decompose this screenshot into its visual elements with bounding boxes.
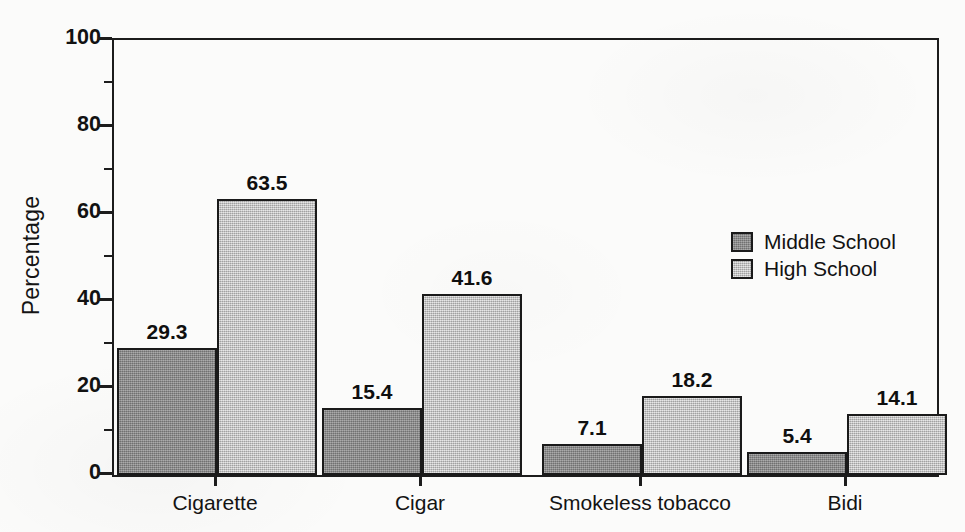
y-axis-tick-labels: 020406080100 <box>0 0 101 532</box>
y-axis-tick-label: 80 <box>49 114 101 136</box>
y-axis-major-tick <box>98 385 112 388</box>
bar-smokeless-tobacco-high-school <box>642 396 742 475</box>
bar-chart-figure: Percentage 020406080100 29.363.515.441.6… <box>0 0 965 532</box>
legend-item-middle-school: Middle School <box>731 228 896 255</box>
y-axis-minor-tick <box>104 429 112 432</box>
bar-value-label: 15.4 <box>352 381 393 402</box>
bar-smokeless-tobacco-middle-school <box>542 444 642 475</box>
y-axis-minor-tick <box>104 255 112 258</box>
bar-bidi-high-school <box>847 414 947 475</box>
dark-gray-swatch-icon <box>731 232 753 252</box>
bar-cigar-high-school <box>422 294 522 475</box>
y-axis-tick-label: 100 <box>49 27 101 49</box>
bar-value-label: 7.1 <box>577 417 606 438</box>
y-axis-tick-label: 60 <box>49 201 101 223</box>
legend-label-high-school: High School <box>764 258 877 279</box>
y-axis-tick-label: 20 <box>49 375 101 397</box>
y-axis-minor-tick <box>104 81 112 84</box>
x-axis-category-label: Bidi <box>827 492 862 514</box>
bar-value-label: 14.1 <box>877 387 918 408</box>
light-gray-swatch-icon <box>731 259 753 279</box>
bar-value-label: 41.6 <box>452 267 493 288</box>
y-axis-major-tick <box>98 124 112 127</box>
legend-item-high-school: High School <box>731 255 896 282</box>
bar-value-label: 5.4 <box>782 425 811 446</box>
y-axis-major-tick <box>98 298 112 301</box>
bar-value-label: 18.2 <box>672 369 713 390</box>
y-axis-tick-label: 40 <box>49 288 101 310</box>
bar-cigar-middle-school <box>322 408 422 475</box>
bar-value-label: 63.5 <box>247 172 288 193</box>
y-axis-major-tick <box>98 211 112 214</box>
x-axis-category-label: Cigar <box>395 492 445 514</box>
bar-value-label: 29.3 <box>147 321 188 342</box>
y-axis-tick-label: 0 <box>49 462 101 484</box>
chart-legend: Middle School High School <box>731 228 896 282</box>
x-axis-category-label: Smokeless tobacco <box>549 492 731 514</box>
y-axis-major-tick <box>98 37 112 40</box>
y-axis-minor-tick <box>104 168 112 171</box>
y-axis-major-tick <box>98 472 112 475</box>
y-axis-minor-tick <box>104 342 112 345</box>
bar-bidi-middle-school <box>747 452 847 475</box>
x-axis-category-label: Cigarette <box>172 492 257 514</box>
plot-area: 29.363.515.441.67.118.25.414.1 Middle Sc… <box>112 38 939 477</box>
legend-label-middle-school: Middle School <box>764 231 896 252</box>
bar-cigarette-middle-school <box>117 348 217 475</box>
bar-cigarette-high-school <box>217 199 317 475</box>
